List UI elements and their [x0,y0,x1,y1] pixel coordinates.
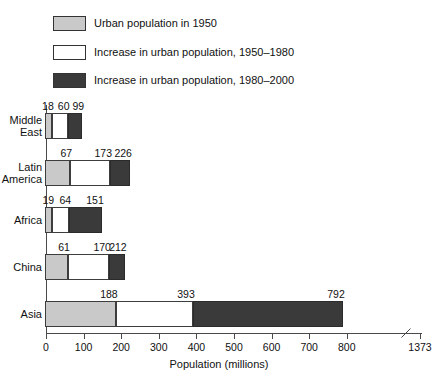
bar-chart: Middle EastLatin AmericaAfricaChinaAsia … [0,0,438,380]
x-tick [121,333,122,339]
bar-value-label: 393 [177,289,195,300]
bar-segment-white [52,207,69,233]
x-tick [234,333,235,339]
x-tick-label: 600 [263,341,281,353]
bar-value-label: 18 [42,101,54,112]
bar-segment-white [52,113,68,139]
bar-row [46,207,438,233]
x-tick-label: 1373 [408,341,431,353]
x-tick-label: 500 [225,341,243,353]
bar-segment-grey [45,207,52,233]
bar-value-label: 212 [109,242,127,253]
category-label-text: Asia [0,308,42,320]
bar-value-label: 64 [59,195,71,206]
x-tick [159,333,160,339]
x-tick-label: 100 [75,341,93,353]
bar-value-label: 188 [100,289,118,300]
bar-segment-grey [45,113,52,139]
bar-axis-break-icon [406,301,415,327]
bar-value-label: 226 [114,148,132,159]
bar-segment-grey [45,160,70,186]
bar-row [46,160,438,186]
bar-row [46,254,438,280]
bar-segment-grey [45,254,68,280]
x-tick-label: 300 [150,341,168,353]
x-tick-label: 800 [338,341,356,353]
bar-segment-white [116,301,193,327]
category-label-text: Middle East [0,114,42,138]
bar-value-label: 173 [95,148,113,159]
bar-value-label: 19 [42,195,54,206]
bar-segment-dark [193,301,343,327]
bar-segment-dark [69,207,102,233]
bar-segment-dark [68,113,83,139]
bar-segment-dark [109,254,125,280]
x-tick [420,333,421,339]
bar-value-label: 60 [58,101,70,112]
category-label-text: Africa [0,214,42,226]
category-label-text: China [0,261,42,273]
x-tick-label: 0 [43,341,49,353]
x-tick [347,333,348,339]
x-axis-title: Population (millions) [0,358,438,370]
bar-segment-white [70,160,110,186]
bar-segment-white [68,254,109,280]
x-tick [272,333,273,339]
bar-value-label: 67 [61,148,73,159]
x-tick [84,333,85,339]
x-tick-label: 200 [112,341,130,353]
bar-value-label: 792 [327,289,345,300]
x-tick [309,333,310,339]
category-label-text: Latin America [0,161,42,185]
bar-value-label: 61 [58,242,70,253]
bar-value-label: 99 [73,101,85,112]
bar-segment-dark [110,160,130,186]
bar-row [46,113,438,139]
x-tick-label: 700 [300,341,318,353]
axis-break-icon [399,326,413,340]
x-tick [196,333,197,339]
x-tick-label: 400 [188,341,206,353]
bar-value-label: 151 [86,195,104,206]
bar-row [46,301,438,327]
bar-segment-grey [45,301,116,327]
x-tick [46,333,47,339]
